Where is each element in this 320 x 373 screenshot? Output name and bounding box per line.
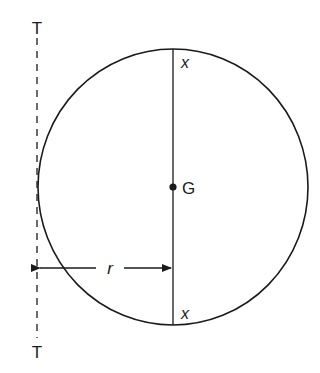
diameter-label-top: x — [180, 54, 190, 71]
diameter-label-bottom: x — [180, 305, 190, 322]
axis-label-bottom: T — [32, 343, 42, 362]
diagram-canvas: T T G x x r — [0, 0, 320, 373]
axis-label-top: T — [32, 19, 42, 38]
centroid-label: G — [182, 179, 195, 198]
centroid-dot — [169, 183, 176, 190]
dimension-label-r: r — [107, 259, 114, 278]
